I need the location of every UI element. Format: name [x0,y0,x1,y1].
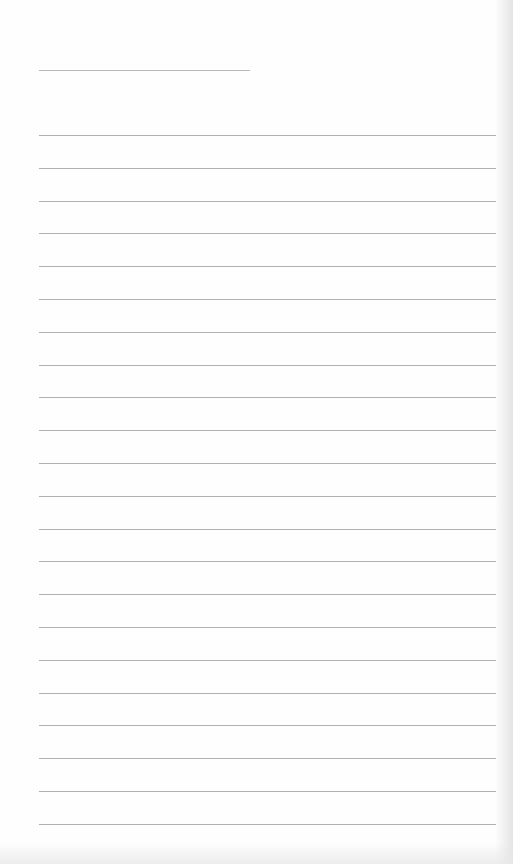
ruled-line [39,660,496,661]
ruled-line [39,168,496,169]
title-write-line [39,70,250,71]
ruled-line [39,233,496,234]
ruled-line [39,725,496,726]
ruled-line [39,365,496,366]
ruled-line [39,791,496,792]
ruled-line [39,758,496,759]
ruled-line [39,463,496,464]
ruled-line [39,299,496,300]
ruled-line [39,430,496,431]
ruled-line [39,529,496,530]
ruled-line [39,201,496,202]
ruled-line [39,266,496,267]
ruled-line [39,824,496,825]
lined-paper-sheet [0,0,513,864]
ruled-line [39,627,496,628]
ruled-line [39,693,496,694]
ruled-line [39,397,496,398]
ruled-line [39,332,496,333]
paper-bottom-shadow [0,842,513,864]
ruled-line [39,561,496,562]
ruled-line [39,135,496,136]
ruled-line [39,496,496,497]
paper-edge-shadow [495,0,513,864]
ruled-line [39,594,496,595]
